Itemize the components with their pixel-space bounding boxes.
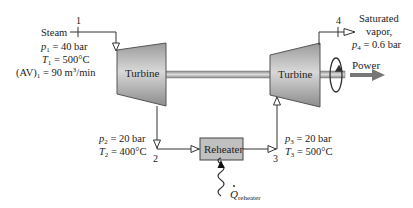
q-dot [233, 185, 235, 187]
state-1-pressure: p1 = 40 bar [40, 41, 88, 54]
pipe-2 [154, 106, 201, 153]
state-4-line1: Saturated [359, 13, 399, 24]
pipe-3 [243, 97, 281, 153]
turbine-1: Turbine [117, 43, 166, 106]
state-1-name: Steam [41, 27, 67, 38]
heat-rate-label: Qreheater [230, 188, 261, 202]
state-3-temperature: T3 = 500°C [285, 146, 332, 159]
reheater: Reheater [200, 138, 243, 160]
reheat-cycle-diagram: Turbine Turbine Reheater [0, 0, 413, 208]
reheater-label: Reheater [204, 143, 243, 155]
heat-input-icon [218, 158, 225, 196]
state-1-temperature: T1 = 500°C [42, 54, 89, 67]
state-2-number: 2 [153, 153, 158, 164]
state-2-pressure: p2 = 20 bar [98, 133, 146, 146]
exit-pipe-4 [319, 27, 355, 45]
turbine-2-label: Turbine [278, 68, 313, 80]
power-label: Power [352, 59, 380, 71]
state-4-number: 4 [336, 15, 341, 26]
state-2-temperature: T2 = 400°C [99, 146, 146, 159]
state-3-pressure: p3 = 20 bar [284, 133, 332, 146]
state-1-volume-flow: (AV)1 = 90 m3/min [16, 66, 96, 80]
state-4-line2: vapor, [366, 26, 392, 37]
state-3-number: 3 [273, 153, 278, 164]
state-1-number: 1 [76, 15, 81, 26]
state-4-pressure: p4 = 0.6 bar [351, 39, 402, 52]
turbine-1-label: Turbine [125, 67, 160, 79]
